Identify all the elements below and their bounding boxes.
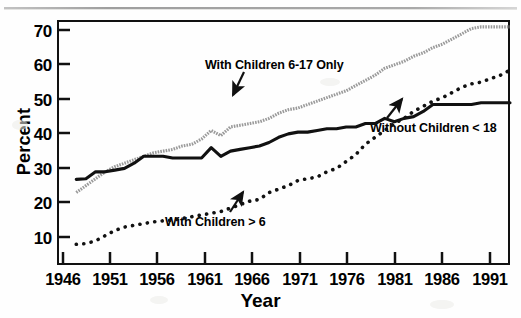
arrow-with-children-6 <box>230 192 243 212</box>
scan-speckle <box>430 300 454 309</box>
scan-speckle <box>320 78 340 86</box>
arrow-with-children-6-17 <box>233 72 244 95</box>
series-group <box>76 27 510 244</box>
scan-speckle <box>150 296 168 304</box>
x-axis-ticks <box>63 252 490 265</box>
annotation-arrows <box>230 72 402 212</box>
series-without-children-18-line <box>76 103 510 180</box>
series-with-children-6-17-line <box>76 27 510 193</box>
plot-canvas <box>0 0 521 318</box>
chart-figure: 70 60 50 40 30 20 10 Percent 1946 1951 1… <box>0 0 521 318</box>
scan-speckle <box>12 120 28 130</box>
y-axis-ticks <box>57 30 70 237</box>
arrow-without-children-18 <box>387 99 402 118</box>
